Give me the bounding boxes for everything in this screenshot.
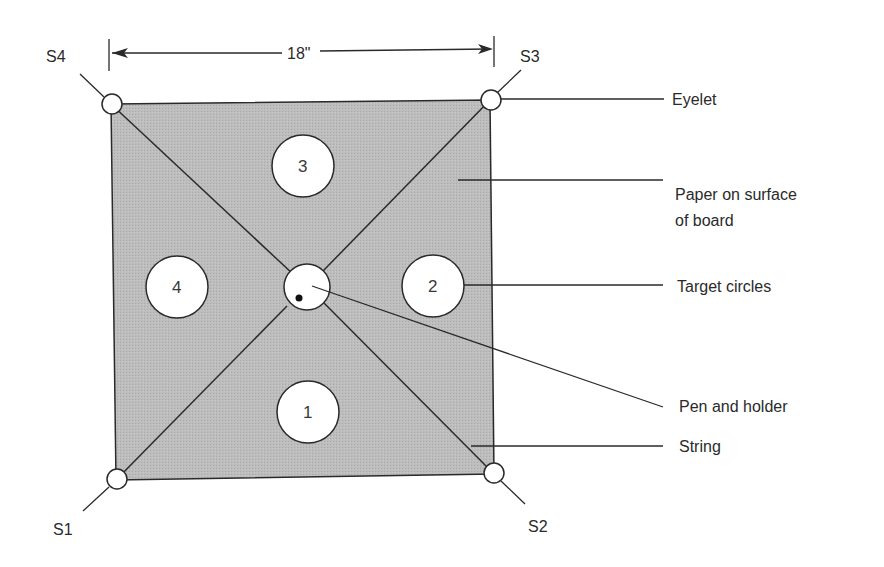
eyelet-s1 [107, 469, 127, 489]
eyelet-s3 [481, 90, 501, 110]
callout-target-circles: Target circles [677, 278, 771, 295]
callout-pen-holder: Pen and holder [679, 398, 788, 415]
callout-eyelet: Eyelet [672, 91, 717, 108]
target-label-3: 3 [298, 157, 307, 176]
corner-label-s4: S4 [46, 48, 66, 65]
target-label-4: 4 [172, 278, 181, 297]
callout-paper-line2: of board [675, 212, 734, 229]
board-diagram: 18" S4 S3 S1 S2 3 4 2 1 [0, 0, 884, 567]
corner-label-s3: S3 [520, 48, 540, 65]
pen-tip-icon [296, 295, 303, 302]
corner-label-s1: S1 [53, 521, 73, 538]
target-label-2: 2 [428, 277, 437, 296]
callout-string: String [679, 438, 721, 455]
eyelet-s2 [484, 463, 504, 483]
eyelet-s4 [102, 94, 122, 114]
pen-holder [284, 264, 330, 310]
callout-paper-line1: Paper on surface [675, 186, 797, 203]
dimension-label: 18" [287, 45, 310, 62]
target-label-1: 1 [303, 403, 312, 422]
corner-label-s2: S2 [528, 518, 548, 535]
